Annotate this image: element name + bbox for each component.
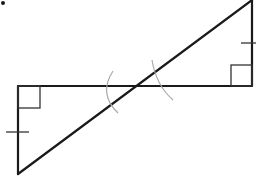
dot-marker bbox=[1, 1, 5, 5]
right-angle-right bbox=[231, 65, 252, 86]
right-angle-left bbox=[18, 86, 40, 108]
geometry-diagram bbox=[0, 0, 256, 177]
